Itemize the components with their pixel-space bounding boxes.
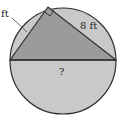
- left-side-label: ft: [1, 8, 9, 19]
- right-side-label: 8 ft: [80, 20, 97, 31]
- diagram-canvas: ft 8 ft ?: [0, 0, 117, 117]
- diameter-label: ?: [59, 66, 64, 77]
